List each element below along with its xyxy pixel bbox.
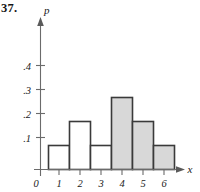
- bar-5: [133, 122, 154, 170]
- figure-container: 37.: [0, 0, 200, 192]
- origin-label: 0: [33, 178, 39, 189]
- bar-6: [154, 146, 175, 170]
- bar-3: [91, 146, 112, 170]
- bar-1: [49, 146, 70, 170]
- x-tick-label-2: 2: [77, 178, 83, 189]
- y-tick-label-0.4: .4: [23, 61, 32, 72]
- histogram-plot: .1 .2 .3 .4 1 2 3 4 5 6 0 p x: [0, 0, 200, 192]
- y-tick-label-0.1: .1: [23, 133, 31, 144]
- y-axis: [36, 17, 45, 176]
- y-axis-arrow-icon: [37, 17, 44, 26]
- x-tick-label-5: 5: [140, 178, 145, 189]
- x-axis-label: x: [187, 163, 193, 175]
- x-tick-label-1: 1: [56, 178, 61, 189]
- x-tick-labels: 1 2 3 4 5 6: [56, 178, 167, 189]
- x-tick-label-6: 6: [161, 178, 167, 189]
- bar-group: [49, 98, 175, 170]
- x-axis-arrow-icon: [176, 166, 185, 173]
- y-tick-labels: .1 .2 .3 .4: [23, 61, 32, 144]
- bar-4: [112, 98, 133, 170]
- bar-2: [70, 122, 91, 170]
- x-tick-label-3: 3: [97, 178, 103, 189]
- y-axis-label: p: [43, 4, 50, 16]
- y-tick-label-0.3: .3: [23, 85, 31, 96]
- y-tick-label-0.2: .2: [23, 109, 32, 120]
- x-tick-label-4: 4: [119, 178, 125, 189]
